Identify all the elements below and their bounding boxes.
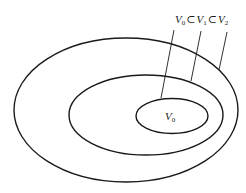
subset-caption: V0⊂V1⊂V2	[175, 13, 229, 27]
set-v0-label: V0	[165, 110, 176, 124]
leader-line-v0	[161, 30, 174, 98]
set-v1-ellipse	[69, 75, 223, 155]
nested-sets-diagram: V0⊂V1⊂V2 V0	[0, 0, 246, 193]
leader-line-v2	[219, 32, 227, 70]
set-v2-ellipse	[14, 38, 238, 182]
